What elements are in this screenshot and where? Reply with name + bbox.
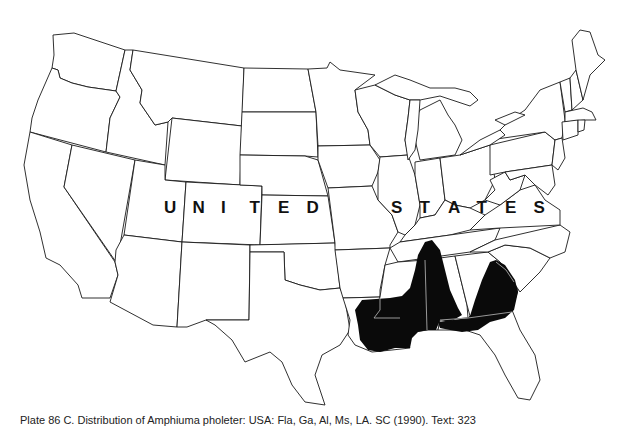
state-iowa: [318, 145, 380, 188]
state-wyoming: [165, 118, 242, 185]
label-letter: U: [164, 198, 193, 218]
label-letter: I: [221, 198, 250, 218]
label-letter: E: [278, 198, 307, 218]
label-letter: T: [477, 198, 506, 218]
state-south-dakota: [240, 112, 318, 157]
label-letter: S: [534, 198, 563, 218]
label-letter: N: [193, 198, 222, 218]
state-rhode-island: [578, 120, 585, 132]
state-connecticut: [562, 120, 578, 140]
label-letter: T: [420, 198, 449, 218]
state-arizona: [110, 235, 182, 327]
label-letter: A: [448, 198, 477, 218]
figure-caption: Plate 86 C. Distribution of Amphiuma pho…: [20, 414, 476, 426]
label-letter: T: [250, 198, 279, 218]
state-new-mexico: [177, 242, 250, 327]
country-label: UNITEDSTATES: [164, 198, 562, 218]
state-north-dakota: [242, 68, 316, 112]
label-letter: E: [505, 198, 534, 218]
label-letter: D: [307, 198, 336, 218]
label-letter: S: [391, 198, 420, 218]
